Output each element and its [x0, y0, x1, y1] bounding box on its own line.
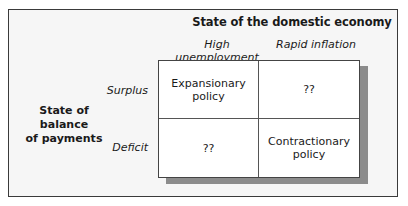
policy-matrix: Expansionary policy ?? ?? Contractionary… — [158, 60, 360, 178]
row-axis-title-line1: State of balance — [18, 104, 110, 132]
cell-text-line2: policy — [171, 90, 245, 103]
column-axis-title: State of the domestic economy — [192, 15, 392, 29]
cell-text-line1: Expansionary — [171, 77, 245, 90]
row-header-deficit: Deficit — [98, 141, 148, 154]
cell-text-line2: policy — [268, 148, 350, 161]
cell-surplus-rapid-inflation: ?? — [259, 61, 359, 119]
cell-deficit-high-unemployment: ?? — [159, 119, 259, 177]
row-header-surplus: Surplus — [98, 84, 148, 97]
cell-surplus-high-unemployment: Expansionary policy — [159, 61, 259, 119]
row-axis-title: State of balance of payments — [18, 104, 110, 146]
cell-text-line1: Contractionary — [268, 135, 350, 148]
row-axis-title-line2: of payments — [18, 132, 110, 146]
cell-deficit-rapid-inflation: Contractionary policy — [259, 119, 359, 177]
column-header-rapid-inflation: Rapid inflation — [276, 38, 356, 51]
